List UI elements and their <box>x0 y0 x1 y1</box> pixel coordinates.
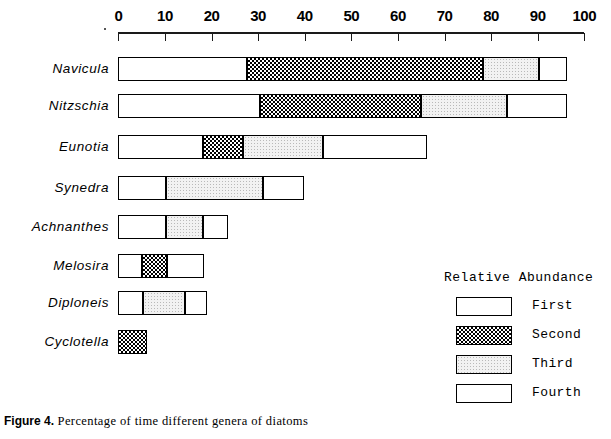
bar-segment-first <box>539 57 567 81</box>
figure-caption: Figure 4. Percentage of time different g… <box>4 414 524 429</box>
bar-segment-second <box>260 94 421 118</box>
bar-track <box>118 254 204 278</box>
legend-entry: Fourth <box>444 382 609 411</box>
legend-entry: Second <box>444 324 609 353</box>
figure-4-diatom-abundance-chart: 0102030405060708090100 NaviculaNitzschia… <box>0 0 611 439</box>
bar-row: Eunotia <box>0 135 611 159</box>
bar-category-label: Diploneis <box>48 296 109 310</box>
bar-segment-first <box>203 215 228 239</box>
bar-segment-second <box>203 135 243 159</box>
legend-title: Relative Abundance <box>444 270 609 285</box>
legend-label: Fourth <box>532 386 581 400</box>
bar-segment-second <box>142 254 167 278</box>
legend-entry: Third <box>444 353 609 382</box>
bar-segment-second <box>247 57 483 81</box>
legend-label: Second <box>532 328 581 342</box>
bar-segment-first <box>263 176 304 200</box>
bar-category-label: Achnanthes <box>32 220 109 234</box>
bar-track <box>118 176 303 200</box>
chart-legend: Relative Abundance FirstSecondThirdFourt… <box>444 270 609 411</box>
bar-track <box>118 330 147 354</box>
bar-segment-third <box>483 57 539 81</box>
bar-segment-fourth <box>118 176 166 200</box>
bar-track <box>118 94 567 118</box>
legend-swatch-second <box>456 326 512 345</box>
bar-category-label: Navicula <box>52 62 109 76</box>
bar-category-label: Eunotia <box>59 140 109 154</box>
legend-swatch-first <box>456 297 512 316</box>
bar-row: Synedra <box>0 176 611 200</box>
bar-segment-first <box>167 254 204 278</box>
figure-caption-text: Percentage of time different genera of d… <box>54 414 308 428</box>
bar-track <box>118 291 207 315</box>
bar-segment-third <box>421 94 507 118</box>
bar-segment-first <box>507 94 567 118</box>
legend-entry: First <box>444 295 609 324</box>
bar-segment-fourth <box>118 215 166 239</box>
bar-segment-fourth <box>118 57 247 81</box>
bar-row: Navicula <box>0 57 611 81</box>
bar-track <box>118 135 426 159</box>
bar-category-label: Cyclotella <box>44 335 109 349</box>
bar-segment-fourth <box>118 254 142 278</box>
bar-segment-second <box>118 330 147 354</box>
bar-segment-third <box>243 135 323 159</box>
bar-segment-first <box>323 135 426 159</box>
bar-track <box>118 57 567 81</box>
bar-segment-third <box>143 291 185 315</box>
bar-category-label: Synedra <box>55 181 109 195</box>
legend-swatch-fourth <box>456 384 512 403</box>
bar-row: Nitzschia <box>0 94 611 118</box>
bar-row: Achnanthes <box>0 215 611 239</box>
bar-segment-fourth <box>118 291 143 315</box>
bar-track <box>118 215 228 239</box>
bar-segment-fourth <box>118 94 260 118</box>
bar-segment-third <box>166 215 203 239</box>
bar-category-label: Melosira <box>53 259 109 273</box>
legend-entry-group: FirstSecondThirdFourth <box>444 295 609 411</box>
legend-swatch-third <box>456 355 512 374</box>
legend-label: First <box>532 299 573 313</box>
bar-segment-fourth <box>118 135 203 159</box>
bar-segment-first <box>185 291 207 315</box>
legend-label: Third <box>532 357 573 371</box>
bar-segment-third <box>166 176 263 200</box>
figure-caption-label: Figure 4. <box>4 414 54 428</box>
bar-category-label: Nitzschia <box>49 99 109 113</box>
